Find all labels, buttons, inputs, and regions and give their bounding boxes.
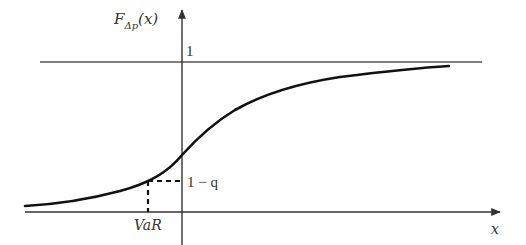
x-axis-label: x: [491, 221, 499, 237]
upper-bound-label: 1: [186, 43, 194, 59]
quantile-label: 1 − q: [187, 174, 218, 190]
var-label: VaR: [134, 217, 162, 233]
cdf-curve: [25, 66, 449, 206]
cdf-diagram: FΔp(x) 1 1 − q VaR x: [0, 0, 526, 245]
y-axis-label: FΔp(x): [113, 10, 158, 31]
